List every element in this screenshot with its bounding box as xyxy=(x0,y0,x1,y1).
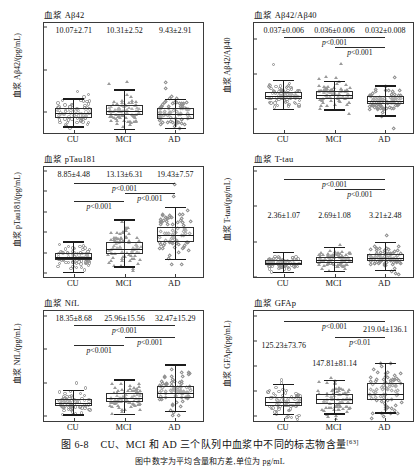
data-point xyxy=(393,403,398,408)
data-point xyxy=(137,382,141,385)
x-tick-mark xyxy=(125,274,126,277)
x-tick-label-CU: CU xyxy=(67,278,79,288)
data-point xyxy=(67,245,70,248)
y-tick-mark xyxy=(254,73,257,74)
data-point xyxy=(369,416,374,421)
box-AD xyxy=(367,383,404,400)
data-point xyxy=(334,76,338,79)
whisker-cap xyxy=(63,241,84,242)
data-point xyxy=(379,364,384,369)
data-point xyxy=(158,122,163,127)
y-axis-label-abeta42: 血浆 Aβ42/(pg/mL) xyxy=(11,14,22,118)
y-tick-mark xyxy=(44,416,47,417)
x-tick-mark xyxy=(284,274,285,277)
median-line-AD xyxy=(367,394,404,395)
y-tick-mark xyxy=(44,69,47,70)
y-tick-mark xyxy=(44,232,47,233)
stat-label-AD: 219.04±136.1 xyxy=(363,325,407,334)
data-point xyxy=(340,264,344,267)
x-tick-mark xyxy=(74,274,75,277)
chart-panel-abeta_ratio: 血浆 Aβ42/Aβ40血浆 Aβ42/Aβ400.0250.0500.0750… xyxy=(210,8,420,154)
data-point xyxy=(110,382,114,385)
figure-container: 血浆 Aβ42血浆 Aβ42/(pg/mL)10203010.07±2.7110… xyxy=(0,0,420,472)
data-point xyxy=(345,410,349,413)
data-point xyxy=(58,243,61,246)
data-point xyxy=(87,264,90,267)
data-point xyxy=(186,248,191,253)
data-point xyxy=(320,98,324,101)
x-tick-label-AD: AD xyxy=(378,134,390,144)
data-point xyxy=(56,265,59,268)
p-value-label: p<0.001 xyxy=(112,184,137,193)
y-tick-mark xyxy=(44,111,47,112)
data-point xyxy=(347,101,351,104)
data-point xyxy=(177,250,182,255)
p-value-label: p<0.001 xyxy=(322,180,347,189)
data-point xyxy=(271,406,274,409)
median-line-AD xyxy=(367,258,404,259)
data-point xyxy=(87,93,90,96)
data-point xyxy=(399,400,404,405)
whisker-cap xyxy=(165,411,186,412)
stat-label-MCI: 0.036±0.006 xyxy=(314,26,354,35)
whisker-cap xyxy=(63,414,84,415)
stat-label-AD: 32.47±15.29 xyxy=(155,314,195,323)
panel-title-abeta_ratio: 血浆 Aβ42/Aβ40 xyxy=(254,8,317,20)
x-tick-mark xyxy=(175,130,176,133)
data-point xyxy=(325,104,329,107)
data-point xyxy=(79,405,82,408)
data-point xyxy=(165,120,170,125)
data-point xyxy=(348,252,352,255)
data-point xyxy=(399,372,404,377)
median-line-MCI xyxy=(316,95,353,96)
y-tick-mark xyxy=(44,191,47,192)
stat-label-AD: 19.43±7.57 xyxy=(157,170,193,179)
y-tick-mark xyxy=(254,109,257,110)
median-line-AD xyxy=(367,101,404,102)
panel-title-abeta42: 血浆 Aβ42 xyxy=(44,8,85,20)
x-tick-label-CU: CU xyxy=(277,422,289,432)
data-point xyxy=(296,418,299,421)
x-tick-label-MCI: MCI xyxy=(115,422,131,432)
stat-label-CU: 125.23±73.76 xyxy=(262,341,306,350)
data-point xyxy=(345,405,349,408)
data-point xyxy=(340,250,344,253)
whisker-cap xyxy=(375,85,396,86)
whisker-cap xyxy=(165,259,186,260)
data-point xyxy=(345,263,349,266)
data-point xyxy=(107,82,111,85)
whisker-cap xyxy=(114,379,135,380)
data-point xyxy=(326,253,330,256)
median-line-AD xyxy=(157,114,194,115)
data-point xyxy=(277,407,280,410)
data-point xyxy=(328,249,332,252)
data-point xyxy=(109,231,113,234)
panel-title-gfap: 血浆 GFAp xyxy=(254,296,296,308)
data-point xyxy=(266,390,269,393)
data-point xyxy=(58,390,61,393)
x-tick-mark xyxy=(74,130,75,133)
panel-title-nfl: 血浆 NfL xyxy=(44,296,80,308)
data-point xyxy=(338,243,342,246)
data-point xyxy=(82,99,85,102)
x-tick-mark xyxy=(385,418,386,421)
y-tick-mark xyxy=(254,206,257,207)
x-tick-mark xyxy=(175,274,176,277)
p-value-label: p<0.001 xyxy=(322,38,347,47)
x-tick-label-AD: AD xyxy=(378,278,390,288)
whisker-cap xyxy=(165,364,186,365)
plot-area-abeta42: 10203010.07±2.7110.31±2.529.43±2.91 xyxy=(43,22,204,134)
x-tick-mark xyxy=(385,130,386,133)
data-point xyxy=(317,263,321,266)
median-line-MCI xyxy=(106,111,143,112)
data-point xyxy=(58,262,61,265)
x-tick-label-MCI: MCI xyxy=(325,278,341,288)
data-point xyxy=(132,389,136,392)
data-point xyxy=(58,121,61,124)
y-tick-mark xyxy=(44,382,47,383)
data-point xyxy=(189,219,194,224)
p-value-label: p<0.001 xyxy=(322,322,347,331)
x-tick-label-CU: CU xyxy=(277,134,289,144)
data-point xyxy=(118,232,122,235)
x-tick-label-CU: CU xyxy=(277,278,289,288)
